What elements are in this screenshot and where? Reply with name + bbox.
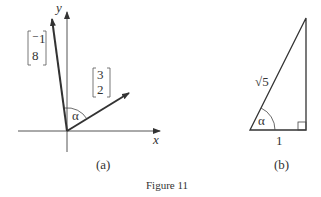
figure-caption: Figure 11 <box>146 179 188 191</box>
vector-2-bottom: 2 <box>97 82 104 98</box>
hypotenuse-label: √5 <box>255 74 269 90</box>
angle-label-a: α <box>72 108 79 124</box>
figure-canvas <box>0 0 321 197</box>
x-axis-label: x <box>153 132 159 148</box>
vector-2-top: 3 <box>97 67 104 83</box>
right-angle-marker <box>298 122 306 130</box>
base-label: 1 <box>276 133 283 149</box>
vector-neg1-8 <box>52 19 67 131</box>
vector-1-top: ⁻1 <box>32 31 46 47</box>
angle-label-b: α <box>258 113 265 129</box>
panel-b-label: (b) <box>274 157 289 173</box>
vector-1-bottom: 8 <box>32 48 39 64</box>
panel-a-label: (a) <box>96 157 110 173</box>
y-axis-label: y <box>56 0 62 16</box>
